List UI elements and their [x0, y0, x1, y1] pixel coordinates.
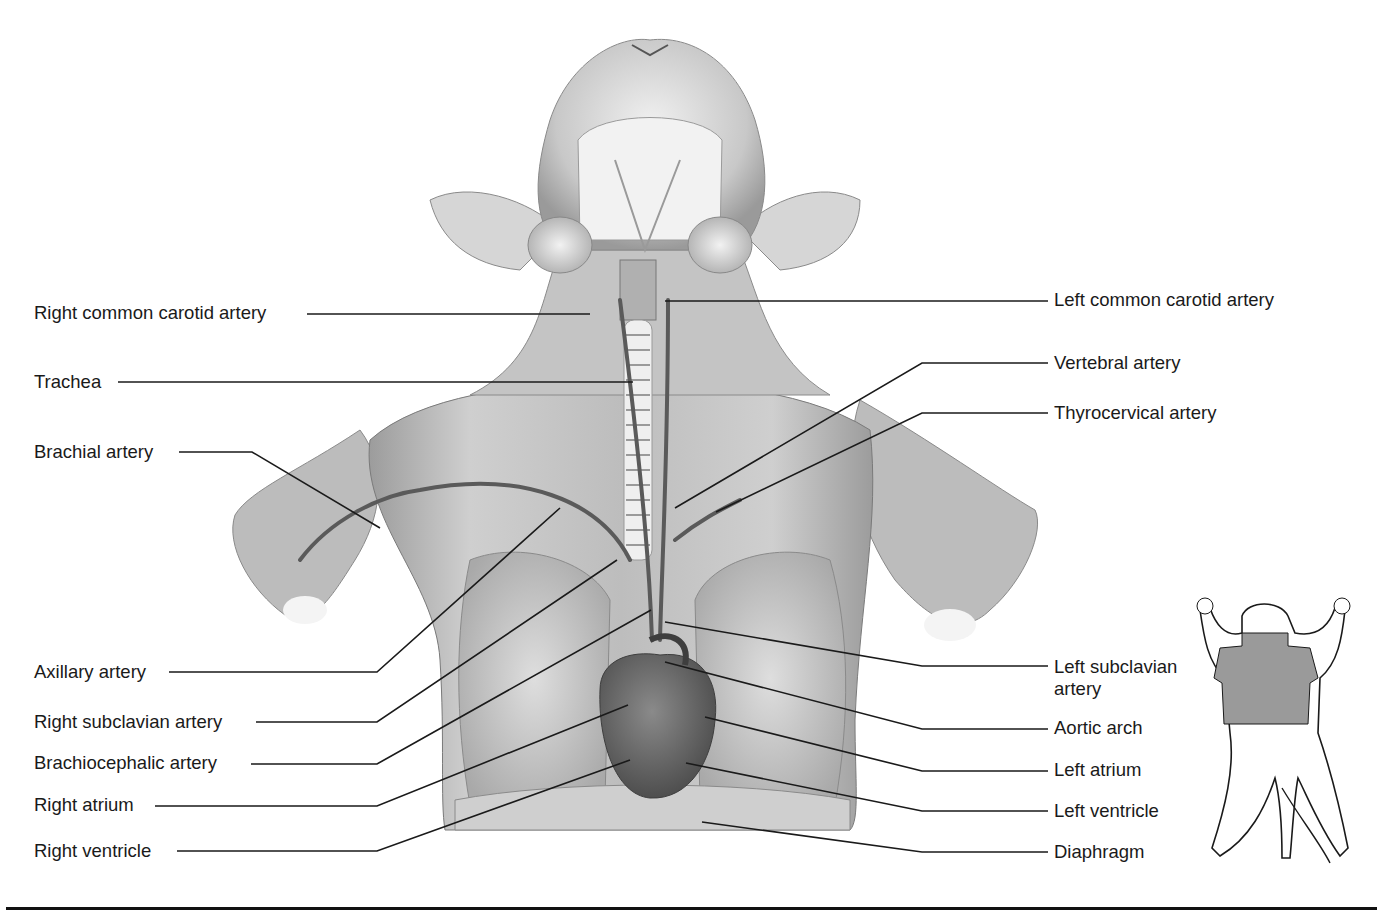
label-brachiocephalic-artery: Brachiocephalic artery: [34, 752, 217, 774]
bottom-rule: [6, 907, 1377, 910]
label-brachial-artery: Brachial artery: [34, 441, 153, 463]
label-right-subclavian-artery: Right subclavian artery: [34, 711, 222, 733]
label-trachea: Trachea: [34, 371, 101, 393]
label-right-ventricle: Right ventricle: [34, 840, 151, 862]
label-left-common-carotid-artery: Left common carotid artery: [1054, 289, 1274, 311]
cat-artery-diagram: Right common carotid artery Trachea Brac…: [0, 0, 1382, 916]
label-axillary-artery: Axillary artery: [34, 661, 146, 683]
label-thyrocervical-artery: Thyrocervical artery: [1054, 402, 1216, 424]
label-left-ventricle: Left ventricle: [1054, 800, 1159, 822]
label-diaphragm: Diaphragm: [1054, 841, 1145, 863]
label-aortic-arch: Aortic arch: [1054, 717, 1142, 739]
head: [430, 39, 860, 273]
label-right-common-carotid-artery: Right common carotid artery: [34, 302, 266, 324]
label-left-subclavian-artery: Left subclavian artery: [1054, 656, 1224, 700]
trachea-illustration: [620, 260, 656, 560]
label-vertebral-artery: Vertebral artery: [1054, 352, 1180, 374]
label-left-atrium: Left atrium: [1054, 759, 1141, 781]
anatomical-illustration: [0, 0, 1382, 916]
label-right-atrium: Right atrium: [34, 794, 134, 816]
orientation-inset: [1197, 598, 1350, 863]
